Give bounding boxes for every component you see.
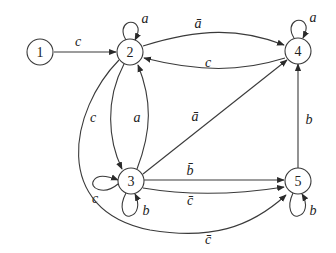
svg-text:c̄: c̄ [187,193,194,208]
state-node-5: 5 [285,168,311,194]
svg-text:3: 3 [128,174,135,189]
edge-5-4: b [298,64,313,168]
edge-5-5-loop: b [290,193,317,218]
edge-3-4: ā [143,60,287,174]
svg-text:a: a [142,11,149,26]
edge-3-5-cbar: c̄ [143,187,284,208]
svg-text:1: 1 [37,45,44,60]
svg-text:a: a [134,110,141,125]
svg-text:c: c [205,55,212,70]
edge-2-2-loop: a [123,11,148,40]
svg-text:c: c [75,34,82,49]
svg-text:5: 5 [295,174,302,189]
svg-text:b: b [310,203,317,218]
svg-text:2: 2 [127,45,134,60]
svg-text:ā: ā [192,109,199,124]
svg-text:ā: ā [195,16,202,31]
svg-text:b̄: b̄ [187,163,194,178]
edge-2-4: ā [143,16,284,46]
edge-2-5-cbar: c̄ [79,60,286,247]
edge-4-2: c [144,55,285,70]
edge-3-3-loop-bottom: b [122,193,149,218]
state-diagram: c a ā c a c a ā c b b̄ c [0,0,336,253]
edge-3-5-bbar: b̄ [144,163,284,180]
svg-text:c: c [90,110,97,125]
edge-4-4-loop: a [291,10,316,38]
edge-1-2: c [54,34,116,52]
svg-text:b: b [143,203,150,218]
svg-text:b: b [306,112,313,127]
state-node-4: 4 [285,38,311,64]
svg-text:c̄: c̄ [205,232,212,247]
state-node-2: 2 [117,39,143,65]
edge-2-3: c [90,64,124,169]
edge-3-2: a [134,65,149,169]
svg-text:4: 4 [295,44,302,59]
svg-text:a: a [310,10,317,25]
state-node-3: 3 [118,168,144,194]
state-node-1: 1 [27,39,53,65]
